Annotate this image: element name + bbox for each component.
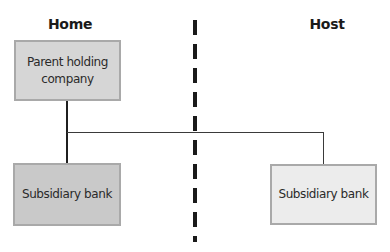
- home-host-divider: [193, 20, 197, 242]
- host-subsidiary-bank-label: Subsidiary bank: [278, 186, 368, 203]
- home-subsidiary-bank-label: Subsidiary bank: [22, 186, 112, 203]
- parent-holding-company-label: Parent holding company: [27, 54, 108, 88]
- host-subsidiary-bank-box: Subsidiary bank: [270, 164, 377, 225]
- connector-horizontal-to-host: [67, 132, 324, 133]
- connector-down-to-host-subsidiary: [323, 132, 324, 165]
- home-subsidiary-bank-box: Subsidiary bank: [13, 163, 121, 226]
- home-heading: Home: [30, 16, 110, 32]
- host-heading: Host: [277, 16, 377, 32]
- diagram-canvas: Home Host Parent holding company Subsidi…: [0, 0, 390, 252]
- parent-holding-company-box: Parent holding company: [14, 40, 121, 101]
